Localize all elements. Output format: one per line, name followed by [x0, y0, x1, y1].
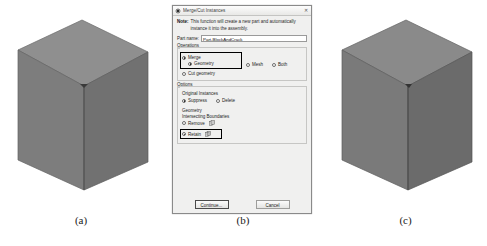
merge-cut-instances-dialog: Merge/Cut Instances ✕ Note: This functio… [172, 5, 312, 214]
suppress-label: Suppress [188, 98, 207, 103]
both-radio-row[interactable]: Both [272, 62, 287, 67]
original-instances-label: Original Instances [182, 91, 302, 96]
part-name-row: Part name: Part-BlockAndCrack [177, 35, 307, 42]
mesh-radio[interactable] [246, 63, 250, 67]
delete-label: Delete [222, 98, 235, 103]
figure-panel-a: (a) [0, 0, 162, 205]
intersecting-boundaries-label: Intersecting Boundaries [182, 114, 302, 119]
mesh-radio-row[interactable]: Mesh [246, 62, 263, 67]
operations-group-box: Merge Geometry Mesh Both [177, 47, 307, 81]
options-group: Options Original Instances Suppress Dele… [177, 85, 307, 144]
merge-highlight-box: Merge Geometry [180, 52, 242, 69]
cut-geometry-radio[interactable] [182, 72, 186, 76]
delete-radio[interactable] [216, 99, 220, 103]
abaqus-merge-icon [175, 8, 181, 14]
geometry-radio-row[interactable]: Geometry [188, 61, 239, 66]
cube-render-c [332, 14, 480, 196]
retain-radio-row[interactable]: Retain [182, 131, 219, 137]
panel-c-caption: (c) [324, 214, 487, 226]
cancel-button[interactable]: Cancel [256, 200, 290, 209]
retain-radio[interactable] [182, 132, 186, 136]
merge-label: Merge [188, 55, 201, 60]
panel-b-caption: (b) [162, 214, 324, 226]
boundary-retain-icon [205, 131, 211, 137]
continue-button[interactable]: Continue... [195, 200, 229, 209]
cube-svg-a [8, 14, 156, 196]
dialog-body: Note: This function will create a new pa… [173, 16, 311, 144]
remove-label: Remove [188, 121, 205, 126]
operations-group: Operations Merge Geometry Mesh [177, 46, 307, 81]
note-label: Note: [177, 19, 189, 24]
suppress-radio[interactable] [182, 99, 186, 103]
dialog-title: Merge/Cut Instances [183, 8, 303, 13]
dialog-button-bar: Continue... Cancel [173, 200, 311, 209]
panel-a-caption: (a) [0, 214, 162, 226]
both-label: Both [278, 62, 287, 67]
geometry-label: Geometry [194, 61, 214, 66]
remove-radio[interactable] [182, 121, 186, 125]
figure-panel-c: (c) [324, 0, 487, 205]
boundary-remove-icon [209, 120, 215, 126]
mesh-both-row: Mesh Both [246, 61, 302, 68]
options-group-box: Original Instances Suppress Delete Geome… [177, 86, 307, 144]
part-name-input[interactable]: Part-BlockAndCrack [201, 35, 307, 42]
mesh-label: Mesh [252, 62, 263, 67]
close-icon[interactable]: ✕ [303, 8, 309, 13]
remove-radio-row[interactable]: Remove [182, 120, 302, 126]
cut-geometry-radio-row[interactable]: Cut geometry [182, 71, 302, 76]
geometry-sub-label: Geometry [182, 108, 302, 113]
delete-radio-row[interactable]: Delete [216, 98, 235, 103]
original-instances-row: Suppress Delete [182, 97, 302, 104]
part-name-label: Part name: [177, 36, 199, 41]
retain-label: Retain [188, 132, 201, 137]
note-row: Note: This function will create a new pa… [177, 19, 307, 32]
both-radio[interactable] [272, 63, 276, 67]
merge-radio[interactable] [182, 56, 186, 60]
cube-render-a [8, 14, 156, 196]
geometry-radio[interactable] [188, 62, 192, 66]
dialog-titlebar[interactable]: Merge/Cut Instances ✕ [173, 6, 311, 16]
cube-svg-c [332, 14, 480, 196]
merge-radio-row[interactable]: Merge [182, 55, 239, 60]
suppress-radio-row[interactable]: Suppress [182, 98, 207, 103]
retain-highlight-box: Retain [180, 129, 222, 139]
note-text: This function will create a new part and… [191, 19, 308, 32]
cut-geometry-label: Cut geometry [188, 71, 215, 76]
